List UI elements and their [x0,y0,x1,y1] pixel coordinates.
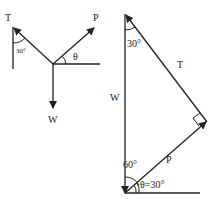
right-angle-marker [193,113,200,126]
label-weight: W [48,114,58,125]
force-diagram: T 30° P θ W 30° T W 60° P θ=30° [0,0,213,199]
angle-arc-top [125,27,135,30]
free-body-diagram: T 30° P θ W [5,12,100,125]
tension-side [126,15,207,122]
angle-arc-theta [62,56,66,64]
label-theta: θ [73,51,78,62]
angle-arc-tension [13,38,25,43]
label-tension: T [177,59,183,70]
force-triangle: 30° T W 60° P θ=30° [110,14,207,193]
label-pull: P [166,154,172,165]
label-angle-tension: 30° [16,47,26,55]
label-angle-60: 60° [123,159,137,170]
label-theta-30: θ=30° [140,179,164,190]
label-pull: P [93,12,99,23]
tension-vector [14,28,53,64]
label-angle-top: 30° [127,38,141,49]
angle-arc-60 [125,177,139,185]
label-weight: W [110,92,120,103]
angle-arc-theta-1 [134,185,136,193]
label-tension: T [5,12,11,23]
